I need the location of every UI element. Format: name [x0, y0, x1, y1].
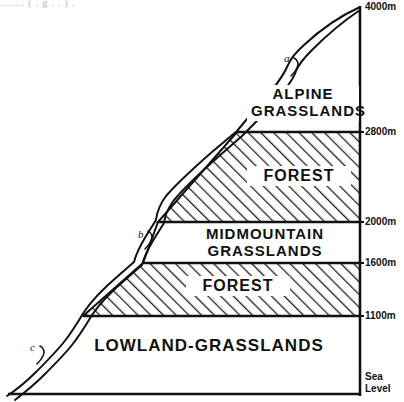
zone-fill-lowland-grasslands	[8, 316, 360, 394]
figure-mountain-zonation: ....... ( . g . . ) .	[0, 0, 404, 402]
slope-marker-a: a	[284, 52, 290, 64]
axis-tick-label-4000m: 4000m	[365, 1, 396, 12]
axis-tick-label-2000m: 2000m	[365, 216, 396, 227]
axis-tick-label-1600m: 1600m	[365, 257, 396, 268]
zonation-diagram	[0, 0, 404, 402]
axis-tick-label-2800m: 2800m	[365, 126, 396, 137]
zone-fill-midmountain-grasslands	[143, 222, 360, 263]
axis-tick-label-1100m: 1100m	[365, 310, 396, 321]
zone-fill-forest-upper	[158, 132, 360, 222]
axis-tick-label-sea-level: Sea Level	[365, 371, 391, 394]
zone-fill-alpine-grasslands	[237, 8, 360, 132]
slope-marker-c: c	[30, 341, 35, 353]
slope-marker-b: b	[138, 228, 144, 240]
